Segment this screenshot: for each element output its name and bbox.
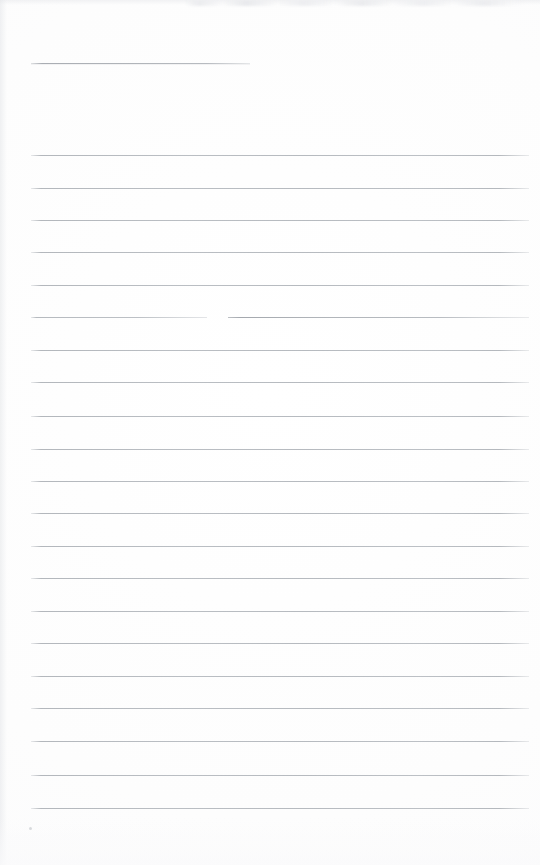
ruled-line [31,741,529,742]
ruled-line [31,708,529,709]
scanned-page [0,0,540,865]
ruled-line [31,188,529,189]
ruled-line [31,513,529,514]
ruled-line [31,643,529,644]
scan-bottom-haze [0,817,540,865]
ruled-line [31,578,529,579]
ruled-line [31,220,529,221]
scan-edge-top [0,0,540,5]
title-rule [31,63,250,64]
ruled-line [31,382,529,383]
ruled-line [31,350,529,351]
ruled-line [31,449,529,450]
ruled-line [31,481,529,482]
scan-edge-left [0,0,7,865]
ruled-line [31,546,529,547]
ruled-line [31,416,529,417]
ruled-line [31,808,529,809]
paper-background [0,0,540,865]
ruled-line [31,285,529,286]
ruled-line [31,676,529,677]
ruled-line [31,775,529,776]
ruled-line-segment [31,317,207,318]
ruled-line-segment [228,317,529,318]
stray-speck-mark [29,827,32,830]
ruled-line [31,252,529,253]
scan-artifact-smudges [185,0,525,6]
ruled-line [31,155,529,156]
ruled-line [31,611,529,612]
